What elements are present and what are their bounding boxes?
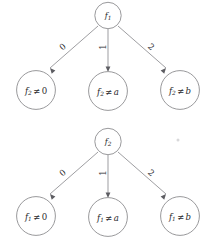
leaf-middle-rel: ≠ bbox=[105, 87, 112, 97]
leaf-right-rel: ≠ bbox=[177, 86, 184, 96]
leaf-left-sub: 1 bbox=[28, 216, 32, 222]
tree-top-root-node[interactable]: f1 bbox=[95, 2, 121, 28]
leaf-right-rel: ≠ bbox=[177, 212, 184, 222]
leaf-middle-rel: ≠ bbox=[105, 213, 112, 223]
edge-root-to-left bbox=[50, 26, 98, 68]
leaf-right-sub: 1 bbox=[172, 216, 176, 222]
tree-bottom-leaf-right[interactable]: f1≠b bbox=[161, 197, 200, 236]
edge-label-1: 1 bbox=[98, 44, 108, 49]
leaf-left-rel: ≠ bbox=[33, 86, 40, 96]
edge-label-1: 1 bbox=[98, 170, 108, 175]
leaf-right-label: f2≠b bbox=[168, 86, 191, 96]
leaf-left-label: f1≠0 bbox=[24, 212, 47, 222]
leaf-left-value: 0 bbox=[42, 212, 47, 222]
leaf-middle-label: f2≠a bbox=[96, 87, 119, 97]
tree-bottom: 0 1 2 f2 f1≠0 f1≠a bbox=[17, 128, 200, 236]
leaf-left-value: 0 bbox=[42, 86, 47, 96]
leaf-left-sub: 2 bbox=[27, 90, 32, 96]
edge-label-2: 2 bbox=[146, 167, 157, 178]
tree-bottom-root-node[interactable]: f2 bbox=[95, 128, 121, 154]
leaf-middle-sub: 1 bbox=[100, 217, 104, 223]
tree-top: 0 1 2 f1 f2≠0 f2≠a bbox=[17, 2, 200, 110]
arrowhead-left bbox=[48, 192, 55, 199]
leaf-right-value: b bbox=[186, 212, 192, 222]
edge-label-0: 0 bbox=[57, 167, 68, 178]
tree-top-leaf-left[interactable]: f2≠0 bbox=[17, 71, 56, 110]
edge-root-to-right bbox=[118, 26, 166, 68]
leaf-left-label: f2≠0 bbox=[24, 86, 47, 96]
edge-label-0: 0 bbox=[57, 41, 68, 52]
leaf-right-value: b bbox=[186, 86, 192, 96]
root-sub: 2 bbox=[107, 141, 112, 147]
tree-bottom-leaf-left[interactable]: f1≠0 bbox=[17, 197, 56, 236]
arrowhead-right bbox=[161, 66, 168, 73]
edge-root-to-left bbox=[50, 152, 98, 194]
leaf-middle-label: f1≠a bbox=[96, 213, 119, 223]
leaf-middle-value: a bbox=[114, 87, 119, 97]
tree-top-leaf-middle[interactable]: f2≠a bbox=[89, 72, 128, 111]
leaf-middle-value: a bbox=[114, 213, 119, 223]
tree-top-leaf-right[interactable]: f2≠b bbox=[161, 71, 200, 110]
edge-root-to-right bbox=[118, 152, 166, 194]
root-sub: 1 bbox=[108, 15, 112, 21]
scan-artifact-speck bbox=[177, 139, 180, 142]
decision-tree-figure: 0 1 2 f1 f2≠0 f2≠a bbox=[0, 0, 214, 252]
edge-label-2: 2 bbox=[146, 41, 157, 52]
leaf-middle-sub: 2 bbox=[99, 91, 104, 97]
leaf-right-sub: 2 bbox=[171, 90, 176, 96]
arrowhead-right bbox=[161, 192, 168, 199]
tree-bottom-leaf-middle[interactable]: f1≠a bbox=[89, 198, 128, 237]
leaf-right-label: f1≠b bbox=[168, 212, 191, 222]
arrowhead-left bbox=[48, 66, 55, 73]
leaf-left-rel: ≠ bbox=[33, 212, 40, 222]
tree-diagram-svg: 0 1 2 f1 f2≠0 f2≠a bbox=[0, 0, 214, 252]
